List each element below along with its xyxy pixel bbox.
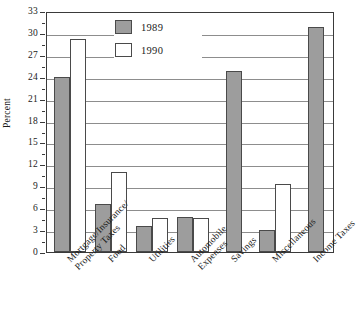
bar-group [47, 13, 88, 252]
x-axis-labels: Mortgage/Insurance/ Property TaxesFoodUt… [0, 253, 349, 333]
y-minor-tick-mark [42, 154, 45, 155]
y-minor-tick-mark [42, 133, 45, 134]
y-minor-tick-mark [42, 111, 45, 112]
y-tick-label: 30 [16, 29, 38, 39]
y-tick-label: 12 [16, 161, 38, 171]
bar-group [212, 13, 253, 252]
y-tick-mark [40, 209, 45, 210]
bar-group [294, 13, 335, 252]
y-tick-label: 6 [16, 204, 38, 214]
bar-1989 [54, 77, 70, 252]
legend-label-1989: 1989 [141, 22, 163, 33]
y-minor-tick-mark [42, 198, 45, 199]
y-tick-label: 24 [16, 73, 38, 83]
y-tick-label: 15 [16, 139, 38, 149]
y-axis: Percent 03691215182124273033 [0, 0, 46, 253]
y-tick-mark [40, 187, 45, 188]
y-tick-label: 21 [16, 95, 38, 105]
bar-1989 [136, 226, 152, 252]
legend-item-1990: 1990 [115, 43, 163, 57]
y-minor-tick-mark [42, 242, 45, 243]
y-tick-mark [40, 34, 45, 35]
y-axis-label: Percent [2, 82, 12, 144]
bar-1989 [259, 230, 275, 252]
y-tick-mark [40, 122, 45, 123]
legend-swatch-icon-1989 [115, 20, 132, 34]
y-minor-tick-mark [42, 89, 45, 90]
chart-legend: 1989 1990 [114, 15, 202, 63]
y-minor-tick-mark [42, 67, 45, 68]
bar-group [253, 13, 294, 252]
y-tick-mark [40, 12, 45, 13]
y-tick-label: 9 [16, 183, 38, 193]
y-minor-tick-mark [42, 176, 45, 177]
y-tick-label: 18 [16, 117, 38, 127]
bar-1990 [70, 39, 86, 252]
y-tick-mark [40, 56, 45, 57]
y-tick-label: 27 [16, 51, 38, 61]
y-tick-mark [40, 143, 45, 144]
bar-1989 [177, 217, 193, 252]
legend-item-1989: 1989 [115, 20, 163, 34]
legend-swatch-icon-1990 [115, 43, 132, 57]
legend-label-1990: 1990 [141, 45, 163, 56]
y-tick-mark [40, 78, 45, 79]
y-tick-mark [40, 231, 45, 232]
bar-1989 [226, 71, 242, 252]
y-minor-tick-mark [42, 23, 45, 24]
y-tick-mark [40, 100, 45, 101]
y-tick-label: 3 [16, 226, 38, 236]
y-tick-label: 33 [16, 7, 38, 17]
y-minor-tick-mark [42, 220, 45, 221]
y-tick-mark [40, 165, 45, 166]
y-minor-tick-mark [42, 45, 45, 46]
